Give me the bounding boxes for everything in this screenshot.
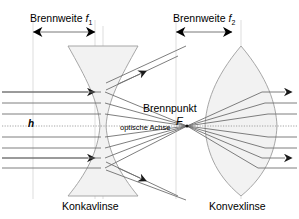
convex-lens — [205, 46, 277, 196]
concave-lens — [68, 46, 138, 196]
focal-length-left-text: Brennweite — [30, 12, 83, 24]
focal-point-marker — [185, 124, 188, 127]
optical-axis-label: optische Achse — [120, 124, 170, 132]
focal-length-right-text: Brennweite — [173, 12, 226, 24]
convex-lens-caption: Konvexlinse — [209, 201, 266, 212]
ray-height-label: h — [28, 119, 34, 129]
focal-length-right-index: 2 — [231, 19, 235, 26]
focal-point-label: Brennpunkt — [143, 103, 197, 114]
optics-diagram: Brennweite f1 Brennweite f2 Brennpunkt F… — [0, 0, 299, 219]
focal-point-symbol-label: F — [176, 116, 183, 127]
focal-length-left-label: Brennweite f1 — [30, 13, 92, 26]
focal-length-right-label: Brennweite f2 — [173, 13, 235, 26]
focal-length-left-index: 1 — [88, 19, 92, 26]
incoming-rays — [2, 92, 101, 168]
concave-lens-caption: Konkavlinse — [62, 201, 119, 212]
